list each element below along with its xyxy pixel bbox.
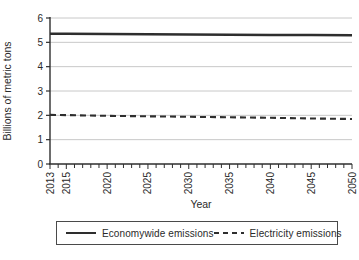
y-tick-label: 3 <box>37 86 43 97</box>
x-tick-label: 2020 <box>102 172 113 195</box>
x-tick-label: 2035 <box>224 172 235 195</box>
y-axis-title: Billions of metric tons <box>1 41 13 140</box>
legend-label-economywide: Economywide emissions <box>102 228 214 239</box>
y-tick-label: 1 <box>37 134 43 145</box>
dashed-line-swatch <box>214 232 244 235</box>
x-axis-title: Year <box>190 198 212 210</box>
y-tick-label: 2 <box>37 110 43 121</box>
series-line-solid <box>50 34 352 35</box>
legend-item-economywide: Economywide emissions <box>66 228 214 239</box>
solid-line-swatch <box>66 232 96 235</box>
x-tick-label: 2025 <box>142 172 153 195</box>
x-tick-label: 2013 <box>45 172 56 195</box>
y-tick-label: 6 <box>37 13 43 24</box>
y-tick-label: 4 <box>37 61 43 72</box>
legend-item-electricity: Electricity emissions <box>214 228 342 239</box>
legend: Economywide emissions Electricity emissi… <box>56 221 338 245</box>
legend-label-electricity: Electricity emissions <box>250 228 342 239</box>
emissions-line-chart: 0123456201320152020202520302035204020452… <box>0 0 359 260</box>
x-tick-label: 2050 <box>347 172 358 195</box>
y-tick-label: 0 <box>37 159 43 170</box>
plot-area: 0123456201320152020202520302035204020452… <box>0 0 359 216</box>
y-tick-label: 5 <box>37 37 43 48</box>
x-tick-label: 2040 <box>265 172 276 195</box>
x-tick-label: 2030 <box>183 172 194 195</box>
x-tick-label: 2045 <box>306 172 317 195</box>
x-tick-label: 2015 <box>61 172 72 195</box>
